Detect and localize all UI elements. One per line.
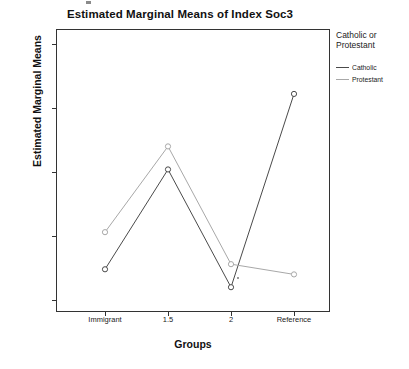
legend-label-catholic: Catholic [352,64,377,71]
legend-title-line1: Catholic or [336,30,409,40]
chart-title: Estimated Marginal Means of Index Soc3 [0,8,360,20]
plot-area [56,29,330,312]
legend-title-line2: Protestant [336,40,409,50]
legend-item-catholic[interactable]: Catholic [336,61,409,73]
page-artifact-mark [86,1,91,4]
legend-line-icon-protestant [336,79,349,80]
chart-root: Estimated Marginal Means of Index Soc3 E… [0,0,409,369]
x-tick-label-reference: Reference [254,315,334,324]
x-axis-title: Groups [56,338,330,350]
plot-speck [237,277,239,279]
legend-line-icon-catholic [336,67,349,68]
legend-label-protestant: Protestant [352,76,383,83]
legend: Catholic or Protestant Catholic Protesta… [336,30,409,85]
legend-items: Catholic Protestant [336,61,409,85]
legend-item-protestant[interactable]: Protestant [336,73,409,85]
